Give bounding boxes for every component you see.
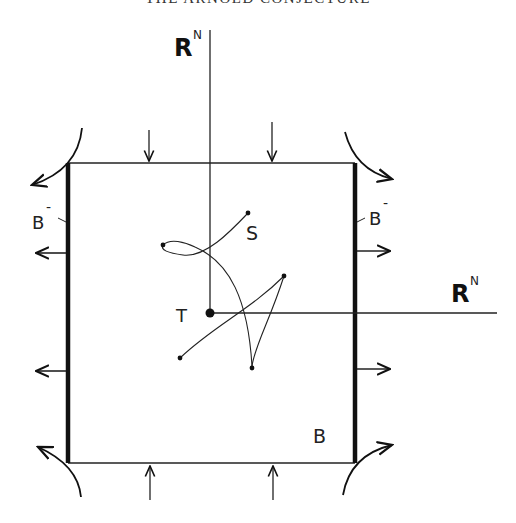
right-boundary-label: B xyxy=(369,208,381,229)
left-boundary-label: B xyxy=(32,212,44,233)
point-t-label: T xyxy=(175,305,188,326)
horizontal-axis-superscript: N xyxy=(470,274,479,288)
left-boundary-superscript: - xyxy=(46,199,51,215)
horizontal-axis-label: R xyxy=(451,280,469,308)
right-boundary-superscript: - xyxy=(383,195,388,211)
arnold-conjecture-diagram: R N R N B - B - S T B xyxy=(0,0,516,523)
axes xyxy=(206,30,498,318)
trajectory-curve xyxy=(162,213,284,366)
vertical-axis-superscript: N xyxy=(193,28,202,42)
vertical-axis-label: R xyxy=(174,34,192,62)
box-b-label: B xyxy=(313,425,326,447)
origin-dot-t xyxy=(206,309,215,318)
point-s-label: S xyxy=(246,222,258,244)
